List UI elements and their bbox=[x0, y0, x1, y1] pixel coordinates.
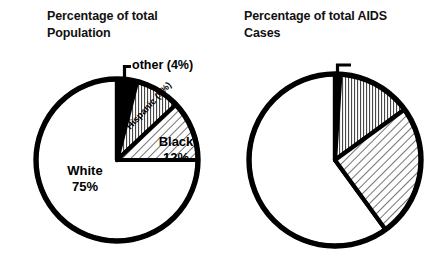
pie-chart-population bbox=[0, 0, 216, 259]
chart-panel-population: Percentage of total Population bbox=[0, 0, 216, 259]
pie-label-other-population: other (4%) bbox=[132, 58, 193, 74]
pie-chart-aids bbox=[216, 0, 433, 259]
chart-panel-aids: Percentage of total AIDS Cases bbox=[216, 0, 433, 259]
two-pie-chart-figure: Percentage of total Population bbox=[0, 0, 433, 259]
pie-label-white-population: White 75% bbox=[52, 163, 118, 195]
pie-label-black-population: Black 12% bbox=[150, 134, 202, 166]
